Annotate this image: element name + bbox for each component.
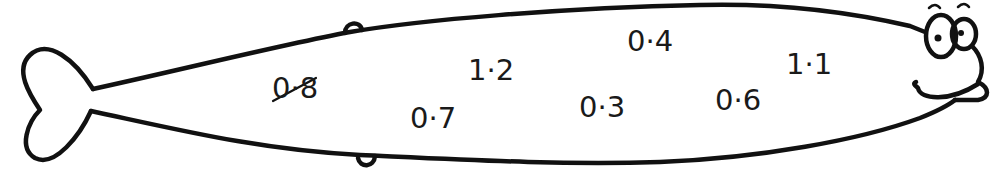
number-label: 0·6 (715, 86, 761, 115)
number-label: 0·7 (410, 104, 456, 133)
number-label: 1·2 (468, 56, 514, 85)
fish-outline-icon (0, 0, 998, 182)
number-label: 0·4 (627, 27, 673, 56)
number-label: 0·3 (579, 93, 625, 122)
number-label: 1·1 (786, 50, 832, 79)
fish-worksheet: 0·8 0·7 1·2 0·3 0·4 0·6 1·1 (0, 0, 998, 182)
number-crossed-out: 0·8 (272, 74, 318, 103)
